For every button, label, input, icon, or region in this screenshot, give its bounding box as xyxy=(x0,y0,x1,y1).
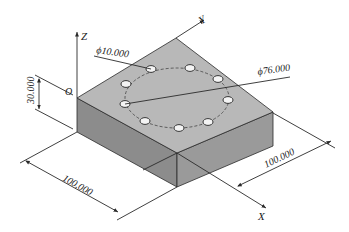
hole xyxy=(213,76,223,83)
bolt-circle-diameter-label: ϕ76.000 xyxy=(257,62,291,77)
z-axis-label: Z xyxy=(81,30,88,42)
hole xyxy=(140,118,150,125)
block xyxy=(77,38,273,187)
extension-line xyxy=(35,75,73,95)
height-label: 30.000 xyxy=(25,77,36,106)
x-axis-label: X xyxy=(257,210,266,222)
extension-line xyxy=(117,187,177,220)
extension-line xyxy=(273,113,335,148)
length-x-label: 100.000 xyxy=(61,172,95,197)
hole xyxy=(223,97,233,104)
hole xyxy=(185,65,195,72)
hole xyxy=(121,81,131,88)
isometric-block-diagram: Z Y X O ϕ10.000 ϕ76.000 30.000 100.000 1… xyxy=(0,0,349,232)
hole xyxy=(174,125,184,132)
extension-line xyxy=(35,109,73,129)
extension-line xyxy=(20,132,77,163)
height-dimension: 30.000 xyxy=(25,75,73,129)
hole xyxy=(203,119,213,126)
